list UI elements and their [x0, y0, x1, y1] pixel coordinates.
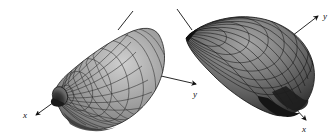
right-z-axis-line [177, 9, 192, 30]
paraboloid-right-panel: y x [0, 0, 335, 139]
paraboloid-right-surface [186, 11, 314, 117]
figure-container: x y [0, 0, 335, 139]
right-y-axis-label: y [322, 11, 327, 21]
right-x-axis-label: x [301, 124, 306, 134]
right-y-axis-line [292, 16, 318, 36]
